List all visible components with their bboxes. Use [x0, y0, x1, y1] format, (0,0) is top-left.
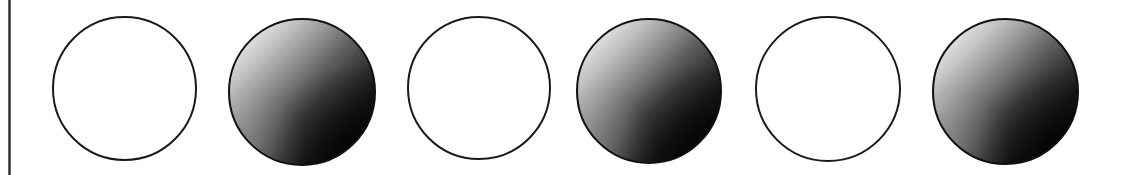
- circle-3-outline: [407, 16, 551, 160]
- circle-6-shaded: [932, 18, 1079, 165]
- circle-4-shaded: [576, 18, 722, 164]
- circle-2-shaded: [228, 18, 376, 166]
- circle-5-outline: [755, 16, 901, 162]
- circle-row: [0, 0, 1127, 175]
- circle-1-outline: [52, 16, 197, 161]
- figure-canvas: [0, 0, 1127, 175]
